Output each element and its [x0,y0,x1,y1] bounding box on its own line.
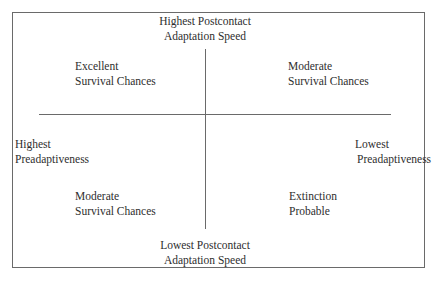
axis-label-bottom: Lowest Postcontact Adaptation Speed [130,238,280,268]
axis-label-left-line1: Highest [15,137,89,152]
quadrant-top-right: Moderate Survival Chances [288,59,369,89]
quadrant-top-left: Excellent Survival Chances [75,59,156,89]
quadrant-bottom-right: Extinction Probable [289,189,337,219]
axis-label-right-line1: Lowest [355,137,431,152]
axis-label-top: Highest Postcontact Adaptation Speed [130,14,280,44]
quadrant-bottom-left: Moderate Survival Chances [75,189,156,219]
horizontal-axis-line [39,114,391,115]
quadrant-bottom-right-line2: Probable [289,204,337,219]
quadrant-bottom-left-line2: Survival Chances [75,204,156,219]
quadrant-top-left-line1: Excellent [75,59,156,74]
axis-label-left-line2: Preadaptiveness [15,152,89,167]
axis-label-top-line2: Adaptation Speed [130,29,280,44]
axis-label-top-line1: Highest Postcontact [130,14,280,29]
axis-label-right-line2: Preadaptiveness [357,152,431,167]
quadrant-bottom-right-line1: Extinction [289,189,337,204]
axis-label-bottom-line2: Adaptation Speed [130,253,280,268]
axis-label-bottom-line1: Lowest Postcontact [130,238,280,253]
quadrant-bottom-left-line1: Moderate [75,189,156,204]
quadrant-top-left-line2: Survival Chances [75,74,156,89]
quadrant-top-right-line2: Survival Chances [288,74,369,89]
axis-label-right: Lowest Preadaptiveness [355,137,431,167]
axis-label-left: Highest Preadaptiveness [15,137,89,167]
quadrant-top-right-line1: Moderate [288,59,369,74]
vertical-axis-line [205,49,206,229]
